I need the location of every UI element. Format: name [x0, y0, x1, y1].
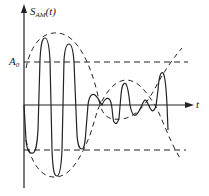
- a0-label: A0: [9, 56, 19, 69]
- am-signal-curve: [24, 38, 168, 176]
- y-axis-label: SAM(t): [30, 6, 56, 19]
- upper-envelope: [26, 33, 182, 119]
- am-waveform-diagram: [0, 0, 209, 196]
- x-axis-label: t: [196, 99, 199, 110]
- x-axis-arrow-icon: [185, 102, 194, 108]
- y-axis-arrow-icon: [21, 4, 27, 13]
